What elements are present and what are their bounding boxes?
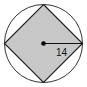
circle-square-diagram: 14: [0, 0, 87, 87]
center-point: [41, 41, 46, 46]
radius-label: 14: [56, 47, 68, 58]
